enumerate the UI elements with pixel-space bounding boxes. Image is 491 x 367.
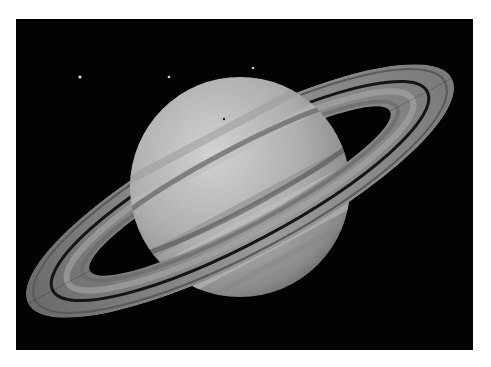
moon-shadow-dot [223, 118, 225, 120]
moon-3 [252, 67, 255, 70]
saturn-scene [16, 19, 473, 350]
moons [78, 67, 254, 79]
space-image-frame [16, 19, 473, 350]
moon-2 [168, 76, 171, 79]
moon-1 [78, 75, 81, 78]
